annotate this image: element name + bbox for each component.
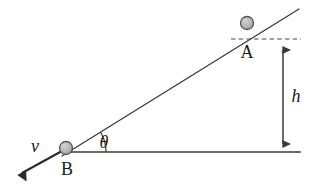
velocity-vector-arrow [22,151,62,173]
ball-b [60,142,73,155]
ball-a [241,17,254,30]
label-velocity-v: v [31,136,39,156]
physics-diagram-canvas: A B h v θ [0,0,330,196]
label-point-b: B [61,159,73,179]
label-height-h: h [292,86,301,106]
label-point-a: A [241,42,254,62]
label-angle-theta: θ [100,132,109,152]
inclined-plane-diagram: A B h v θ [0,0,330,196]
incline-line [62,9,299,156]
